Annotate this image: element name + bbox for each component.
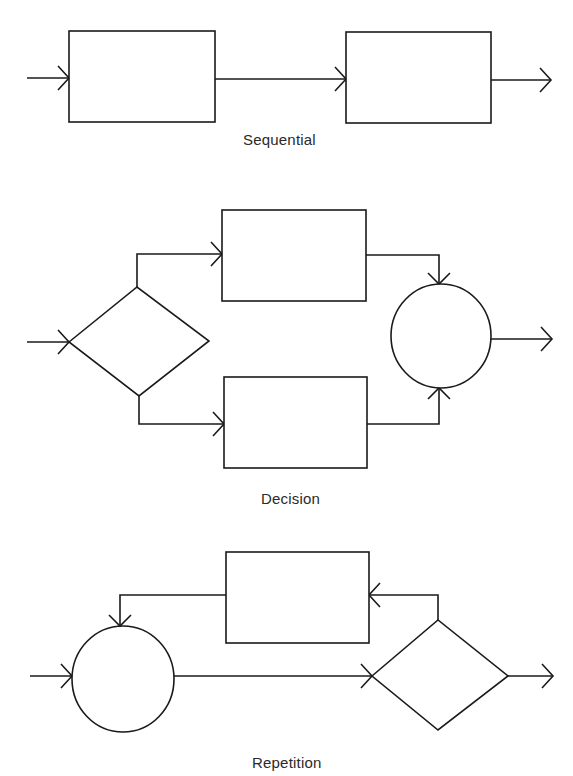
decision-upper-process-box [222, 210, 366, 301]
repetition-junction-circle [72, 626, 174, 732]
decision-lower-branch-line [139, 396, 224, 424]
repetition-caption: Repetition [252, 754, 322, 771]
repetition-loop-process-box [226, 552, 369, 643]
decision-caption: Decision [261, 490, 320, 507]
repetition-decision-diamond [372, 620, 508, 730]
decision-lower-merge-line [367, 388, 439, 424]
decision-junction-circle [391, 284, 491, 388]
repetition-loop-to-box-line [369, 595, 438, 620]
decision-diamond [69, 287, 209, 396]
decision-upper-merge-line [366, 255, 439, 284]
repetition-section [30, 552, 553, 732]
sequential-process-box-2 [346, 32, 491, 123]
decision-section [27, 210, 552, 468]
sequential-section [27, 31, 551, 123]
sequential-process-box-1 [69, 31, 215, 122]
repetition-loop-to-circle-line [120, 595, 226, 626]
decision-lower-process-box [224, 377, 367, 468]
control-structures-diagram [0, 0, 573, 776]
decision-upper-branch-line [137, 254, 222, 287]
sequential-caption: Sequential [243, 131, 316, 148]
